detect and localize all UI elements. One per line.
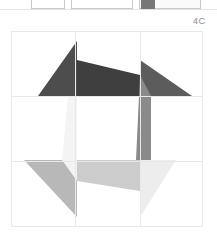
toolbar-divider xyxy=(0,9,217,10)
figure-background xyxy=(11,31,203,227)
color-swatch[interactable] xyxy=(141,0,155,9)
toolbar-chip-1[interactable] xyxy=(31,0,65,9)
cropped-toolbar-strip xyxy=(0,0,217,12)
toolbar-chip-2[interactable] xyxy=(71,0,133,9)
plate-label: 4C xyxy=(193,15,206,27)
pinwheel-figure xyxy=(11,31,203,227)
pinwheel-svg xyxy=(11,31,203,227)
